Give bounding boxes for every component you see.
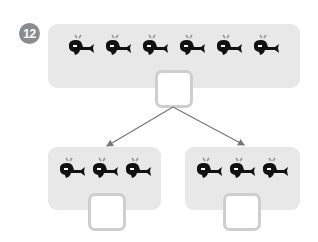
whale-icon	[57, 157, 87, 181]
whale-icon	[227, 157, 257, 181]
right-answer-box[interactable]	[223, 193, 261, 231]
arrow-left	[107, 107, 173, 146]
whale-icon	[90, 157, 120, 181]
left-whale-row	[57, 157, 160, 181]
left-answer-box[interactable]	[88, 193, 126, 231]
whale-icon	[123, 157, 153, 181]
whale-icon	[194, 157, 224, 181]
right-whale-row	[194, 157, 297, 181]
arrow-right	[173, 107, 244, 145]
whale-icon	[260, 157, 290, 181]
